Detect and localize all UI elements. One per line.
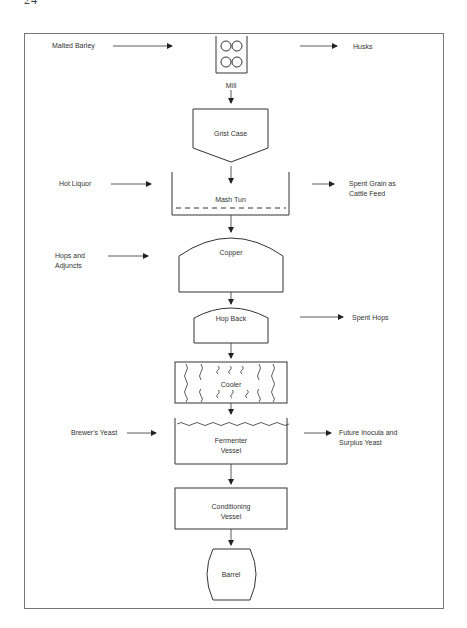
hop-back-label: Hop Back (194, 314, 268, 323)
grist-case-label: Grist Case (193, 129, 268, 138)
copper-shape (179, 238, 283, 292)
output-future-inocula-line1: Future Inocula and (339, 428, 397, 437)
mill-shape (216, 36, 247, 73)
input-brewers-yeast: Brewer's Yeast (71, 428, 117, 437)
output-husks: Husks (353, 42, 372, 51)
mash-tun-shape (172, 172, 289, 215)
input-malted-barley: Malted Barley (52, 41, 95, 50)
barrel-label: Barrel (207, 570, 255, 579)
output-spent-hops: Spent Hops (352, 313, 389, 322)
conditioning-label-line2: Vessel (175, 512, 287, 521)
input-hops-adjuncts-line2: Adjuncts (55, 261, 82, 270)
output-spent-grain-line1: Spent Grain as (349, 179, 396, 188)
input-hot-liquor: Hot Liquor (59, 179, 91, 188)
mill-label: Mill (211, 81, 251, 90)
fermenter-label-line1: Fermenter (175, 436, 287, 445)
cooler-label: Cooler (200, 380, 262, 389)
mash-tun-label: Mash Tun (172, 195, 289, 204)
conditioning-label-line1: Conditioning (175, 502, 287, 511)
input-hops-adjuncts-line1: Hops and (55, 251, 85, 260)
output-spent-grain-line2: Cattle Feed (349, 189, 385, 198)
output-future-inocula-line2: Surplus Yeast (339, 438, 382, 447)
copper-label: Copper (179, 248, 283, 257)
fermenter-label-line2: Vessel (175, 446, 287, 455)
